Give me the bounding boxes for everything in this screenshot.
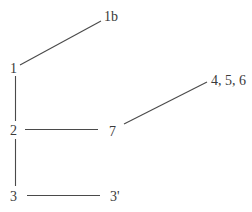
edge-1-1b <box>20 21 101 65</box>
node-3-label: 3 <box>10 189 17 204</box>
edge-7-456 <box>124 82 207 124</box>
node-1-label: 1 <box>10 61 17 76</box>
tree-diagram: 1 1b 2 7 4, 5, 6 3 3' <box>0 0 252 212</box>
node-456-label: 4, 5, 6 <box>211 73 246 88</box>
node-2-label: 2 <box>10 123 17 138</box>
node-7-label: 7 <box>109 124 116 139</box>
node-1b-label: 1b <box>104 9 118 24</box>
node-3prime-label: 3' <box>110 189 120 204</box>
